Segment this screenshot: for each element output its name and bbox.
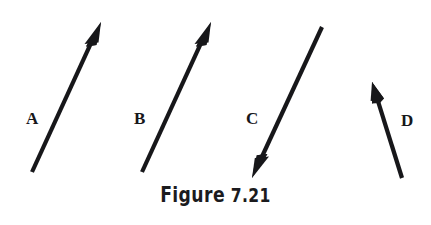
vector-arrow-b [142, 22, 211, 172]
vector-label-c: C [246, 110, 258, 127]
vector-label-a: A [26, 110, 38, 127]
vector-label-d: D [401, 112, 413, 129]
vector-arrow-a [32, 22, 101, 172]
figure-panel: A B C D Figure7.21 [0, 0, 431, 225]
figure-caption-word: Figure [160, 183, 225, 207]
figure-caption-number: 7.21 [231, 184, 271, 206]
vector-arrow-d [371, 82, 402, 178]
vector-arrow-c [252, 27, 322, 178]
figure-caption: Figure7.21 [39, 182, 392, 208]
vector-label-b: B [134, 110, 145, 127]
